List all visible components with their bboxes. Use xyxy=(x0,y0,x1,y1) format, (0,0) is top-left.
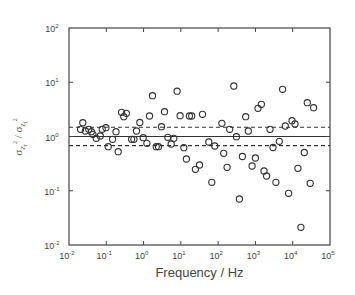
data-point-marker xyxy=(133,128,139,134)
svg-text:σZr2 / σZi2: σZr2 / σZi2 xyxy=(12,118,28,155)
data-point-marker xyxy=(304,100,310,106)
data-point-marker xyxy=(105,144,111,150)
data-point-marker xyxy=(140,135,146,141)
x-tick-label: 10-1 xyxy=(97,250,113,261)
data-point-marker xyxy=(245,128,251,134)
y-axis-title: σZr2 / σZi2 xyxy=(12,118,28,155)
data-point-marker xyxy=(196,162,202,168)
data-point-marker xyxy=(206,139,212,145)
data-point-marker xyxy=(286,190,292,196)
data-point-marker xyxy=(110,136,116,142)
data-point-marker xyxy=(249,163,255,169)
data-point-marker xyxy=(227,126,233,132)
data-point-marker xyxy=(221,150,227,156)
y-tick-label: 102 xyxy=(45,23,59,34)
x-tick-label: 101 xyxy=(172,250,186,261)
data-point-marker xyxy=(311,105,317,111)
data-point-marker xyxy=(165,134,171,140)
scatter-chart: 10-210-1100101102103104105 10-210-110010… xyxy=(0,0,355,295)
x-tick-label: 104 xyxy=(284,250,298,261)
data-point-marker xyxy=(209,179,215,185)
data-point-marker xyxy=(149,93,155,99)
data-point-marker xyxy=(113,129,119,135)
data-point-marker xyxy=(258,101,264,107)
data-point-marker xyxy=(276,138,282,144)
x-axis-title: Frequency / Hz xyxy=(155,265,243,280)
data-point-marker xyxy=(243,114,249,120)
data-points xyxy=(78,83,317,231)
data-point-marker xyxy=(301,149,307,155)
x-tick-label: 10-2 xyxy=(59,250,75,261)
data-point-marker xyxy=(307,180,313,186)
data-point-marker xyxy=(161,109,167,115)
data-point-marker xyxy=(295,165,301,171)
data-point-marker xyxy=(146,113,152,119)
data-point-marker xyxy=(158,124,164,130)
data-point-marker xyxy=(252,155,258,161)
data-point-marker xyxy=(282,123,288,129)
data-point-marker xyxy=(236,196,242,202)
data-point-marker xyxy=(267,126,273,132)
data-point-marker xyxy=(137,119,143,125)
y-tick-label: 101 xyxy=(45,77,59,88)
data-point-marker xyxy=(239,153,245,159)
x-tick-label: 100 xyxy=(135,250,149,261)
data-point-marker xyxy=(255,105,261,111)
data-point-marker xyxy=(280,86,286,92)
data-point-marker xyxy=(224,164,230,170)
y-tick-label: 10-1 xyxy=(44,186,60,197)
data-point-marker xyxy=(174,88,180,94)
data-point-marker xyxy=(199,111,205,117)
data-point-marker xyxy=(99,126,105,132)
y-tick-label: 10-2 xyxy=(44,240,60,251)
x-axis-ticks: 10-210-1100101102103104105 xyxy=(59,28,335,261)
data-point-marker xyxy=(219,120,225,126)
data-point-marker xyxy=(177,113,183,119)
data-point-marker xyxy=(183,156,189,162)
data-point-marker xyxy=(273,179,279,185)
x-tick-label: 102 xyxy=(209,250,223,261)
x-tick-label: 105 xyxy=(321,250,335,261)
x-tick-label: 103 xyxy=(247,250,261,261)
data-point-marker xyxy=(264,173,270,179)
data-point-marker xyxy=(231,83,237,89)
data-point-marker xyxy=(115,149,121,155)
y-tick-label: 100 xyxy=(45,132,59,143)
data-point-marker xyxy=(298,224,304,230)
data-point-marker xyxy=(80,120,86,126)
